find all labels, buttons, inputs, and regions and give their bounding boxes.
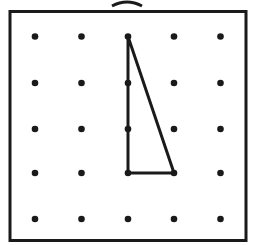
peg-dot — [32, 216, 39, 223]
peg-dot — [32, 126, 39, 133]
peg-dot — [217, 216, 224, 223]
peg-dot — [78, 80, 85, 87]
peg-dot — [171, 33, 178, 40]
peg-dot — [171, 216, 178, 223]
peg-dot — [32, 80, 39, 87]
peg-dot — [217, 80, 224, 87]
peg-dot — [78, 170, 85, 177]
cropped-title-glyph — [112, 2, 142, 6]
peg-dot — [217, 170, 224, 177]
peg-dot — [78, 216, 85, 223]
peg-dot — [171, 126, 178, 133]
peg-dot — [32, 170, 39, 177]
peg-dot — [217, 126, 224, 133]
triangle-shape — [128, 37, 174, 174]
peg-dot — [125, 216, 132, 223]
peg-dot — [217, 33, 224, 40]
peg-dot — [78, 126, 85, 133]
peg-dot — [32, 33, 39, 40]
peg-dot — [171, 80, 178, 87]
peg-dot — [78, 33, 85, 40]
geoboard-diagram — [0, 0, 254, 245]
